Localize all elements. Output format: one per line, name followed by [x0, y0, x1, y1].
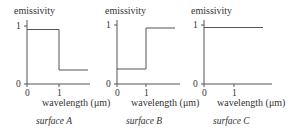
y-axis-label: emissivity: [105, 5, 146, 16]
caption-surface-c: surface C: [213, 116, 250, 126]
x-tick-0: 0: [202, 88, 207, 98]
y-tick-0: 0: [106, 79, 111, 89]
x-axis-label: wavelength (μm): [42, 97, 110, 109]
x-axis-label: wavelength (μm): [131, 97, 199, 109]
panel-surface-b: [114, 20, 180, 87]
y-tick-1: 1: [106, 20, 111, 30]
panel-surface-c: [201, 20, 272, 87]
y-axis-label: emissivity: [14, 5, 55, 16]
x-axis-label: wavelength (μm): [217, 97, 285, 109]
x-tick-0: 0: [115, 88, 120, 98]
y-tick-0: 0: [16, 79, 21, 89]
y-tick-1: 1: [193, 20, 198, 30]
y-tick-1: 1: [16, 21, 21, 31]
x-tick-0: 0: [25, 88, 30, 98]
emissivity-curve: [27, 30, 88, 71]
caption-surface-b: surface B: [126, 116, 162, 126]
caption-surface-a: surface A: [36, 116, 72, 126]
emissivity-diagrams: emissivity 1 0 0 1 wavelength (μm) surfa…: [0, 0, 291, 133]
y-tick-0: 0: [193, 79, 198, 89]
y-axis-label: emissivity: [191, 5, 232, 16]
emissivity-curve: [117, 28, 175, 69]
panel-surface-a: [24, 20, 90, 87]
